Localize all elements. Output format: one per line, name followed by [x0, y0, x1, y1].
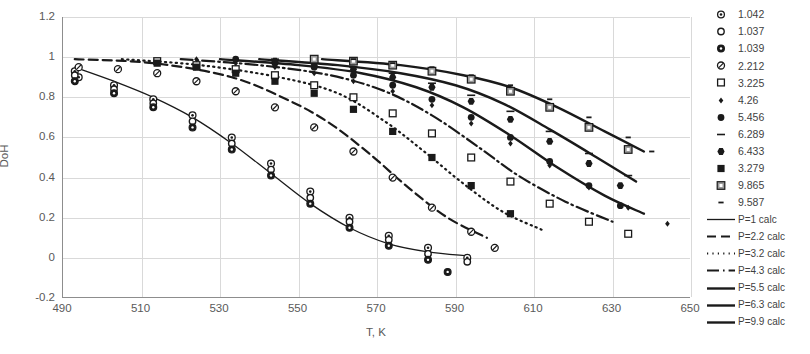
legend-label: 6.433 — [736, 146, 764, 157]
y-tick-label: 0.6 — [0, 132, 55, 144]
legend-item-line[interactable]: P=9.9 calc — [706, 314, 810, 331]
legend-label: 3.225 — [736, 78, 764, 89]
legend-label: 2.212 — [736, 61, 764, 72]
legend-marker-dash — [706, 126, 736, 143]
legend-swatch — [706, 245, 736, 262]
legend-marker-tiny-dash — [706, 194, 736, 211]
series-markers — [154, 60, 514, 218]
x-tick-label: 590 — [425, 303, 485, 315]
legend-item-line[interactable]: P=4.3 calc — [706, 262, 810, 279]
x-tick-label: 630 — [582, 303, 642, 315]
legend-item-line[interactable]: P=2.2 calc — [706, 228, 810, 245]
legend-line-solid-bold — [706, 280, 736, 297]
legend-item-marker[interactable]: 6.433 — [706, 143, 810, 160]
legend-item-line[interactable]: P=1 calc — [706, 211, 810, 228]
plot-wrapper: 1.210.80.60.40.20-0.2 490510530550570590… — [0, 0, 700, 354]
legend-item-marker[interactable]: 6.289 — [706, 126, 810, 143]
legend-swatch — [706, 228, 736, 245]
legend-label: 3.279 — [736, 163, 764, 174]
legend-swatch — [706, 177, 736, 194]
legend-line-solid — [706, 211, 736, 228]
legend-item-marker[interactable]: 1.042 — [706, 6, 810, 23]
legend-line-solid-bold — [706, 314, 736, 331]
legend-swatch — [706, 57, 736, 74]
legend-label: P=6.3 calc — [736, 300, 785, 310]
legend-label: 1.039 — [736, 43, 764, 54]
legend-swatch — [706, 6, 736, 23]
legend-label: P=3.2 calc — [736, 249, 785, 259]
legend-marker-square-solid — [706, 160, 736, 177]
legend-label: P=4.3 calc — [736, 266, 785, 276]
legend-marker-circle-solid — [706, 109, 736, 126]
legend-swatch — [706, 92, 736, 109]
legend-item-marker[interactable]: 9.865 — [706, 177, 810, 194]
legend-swatch — [706, 314, 736, 331]
legend-marker-circle-open — [706, 23, 736, 40]
legend-swatch — [706, 126, 736, 143]
legend-marker-circle-slash — [706, 57, 736, 74]
legend-item-line[interactable]: P=5.5 calc — [706, 280, 810, 297]
series-line — [75, 59, 487, 238]
series-canvas — [63, 17, 691, 298]
x-tick-label: 550 — [268, 303, 328, 315]
x-tick-label: 530 — [189, 303, 249, 315]
legend-swatch — [706, 262, 736, 279]
x-tick-label: 570 — [346, 303, 406, 315]
y-tick-label: 0.8 — [0, 92, 55, 104]
legend: 1.0421.0371.0392.2123.2254.265.4566.2896… — [706, 6, 810, 336]
legend-item-marker[interactable]: 1.039 — [706, 40, 810, 57]
y-axis-label: DoH — [0, 144, 10, 167]
legend-label: 5.456 — [736, 112, 764, 123]
legend-item-marker[interactable]: 4.26 — [706, 91, 810, 108]
legend-line-dotted — [706, 245, 736, 262]
legend-label: 1.037 — [736, 26, 764, 37]
plot-area — [62, 17, 690, 298]
legend-swatch — [706, 109, 736, 126]
y-tick-label: 0.2 — [0, 212, 55, 224]
legend-marker-square-open — [706, 74, 736, 91]
y-tick-label: 0.4 — [0, 172, 55, 184]
series-markers — [71, 68, 470, 261]
legend-marker-circle-filled-dot — [706, 40, 736, 57]
legend-item-marker[interactable]: 3.225 — [706, 74, 810, 91]
legend-item-marker[interactable]: 2.212 — [706, 57, 810, 74]
series-markers — [194, 56, 670, 227]
x-tick-label: 610 — [503, 303, 563, 315]
legend-swatch — [706, 280, 736, 297]
x-tick-label: 510 — [111, 303, 171, 315]
series-line — [122, 59, 542, 230]
legend-item-line[interactable]: P=3.2 calc — [706, 245, 810, 262]
legend-label: 1.042 — [736, 9, 764, 20]
legend-swatch — [706, 40, 736, 57]
legend-item-marker[interactable]: 3.279 — [706, 160, 810, 177]
legend-label: 4.26 — [736, 95, 758, 106]
x-tick-label: 490 — [32, 303, 92, 315]
legend-label: P=5.5 calc — [736, 283, 785, 293]
y-tick-label: 0 — [0, 252, 55, 264]
legend-line-dash-dot — [706, 262, 736, 279]
legend-line-dashed — [706, 228, 736, 245]
chart-screenshot: 1.210.80.60.40.20-0.2 490510530550570590… — [0, 0, 810, 354]
legend-label: 9.865 — [736, 180, 764, 191]
series-markers — [72, 72, 471, 265]
legend-swatch — [706, 23, 736, 40]
legend-marker-hex-solid — [706, 143, 736, 160]
legend-item-marker[interactable]: 5.456 — [706, 109, 810, 126]
legend-label: 6.289 — [736, 129, 764, 140]
legend-swatch — [706, 211, 736, 228]
legend-marker-circle-dot — [706, 6, 736, 23]
legend-swatch — [706, 297, 736, 314]
legend-swatch — [706, 74, 736, 91]
legend-item-line[interactable]: P=6.3 calc — [706, 297, 810, 314]
series-line — [322, 59, 644, 151]
legend-label: P=9.9 calc — [736, 317, 785, 327]
y-tick-label: 1 — [0, 51, 55, 63]
y-tick-label: 1.2 — [0, 11, 55, 23]
series-line — [259, 59, 636, 181]
legend-line-solid-bold — [706, 297, 736, 314]
legend-item-marker[interactable]: 1.037 — [706, 23, 810, 40]
legend-item-marker[interactable]: 9.587 — [706, 194, 810, 211]
legend-marker-square-in-square — [706, 177, 736, 194]
legend-label: 9.587 — [736, 197, 764, 208]
series-markers — [271, 58, 624, 189]
